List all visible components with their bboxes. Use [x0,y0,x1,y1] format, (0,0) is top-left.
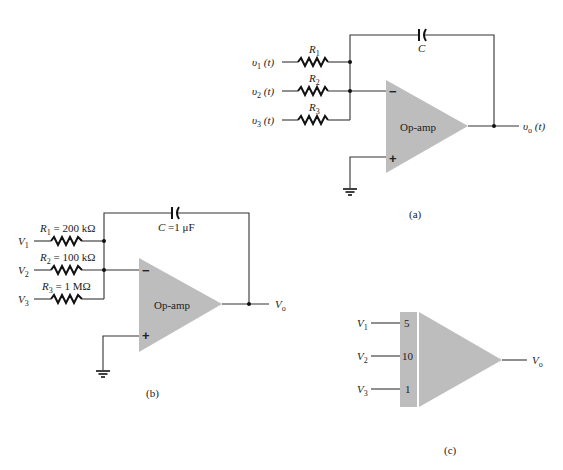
caption-b: (b) [146,387,159,400]
input-label-v2: υ2 (t) [252,85,275,100]
input-label-v3: υ3 (t) [252,114,275,129]
resistor-label-r1: R1 [308,43,320,58]
gain-v2: 10 [402,350,414,362]
ground-wire [103,336,139,370]
input-label-v1: V1 [18,235,29,250]
input-label-v2: V2 [357,350,368,365]
capacitor-label: C =1 μF [158,221,195,233]
junction-dot [102,239,106,243]
amplifier-triangle [419,312,502,407]
resistor-label-r3: R3 = 1 MΩ [41,280,91,295]
junction-dot [348,60,352,64]
resistor-label-r1: R1 = 200 kΩ [39,222,95,237]
circuit-diagrams: C υ1 (t) R1 υ2 (t) R2 υ3 (t) R3 [0,0,563,470]
caption-a: (a) [409,208,422,221]
input-label-v1: υ1 (t) [252,56,275,71]
input-label-v1: V1 [357,317,368,332]
noninverting-sign: + [389,151,397,166]
output-label: Vo [275,298,286,313]
capacitor-icon [419,29,426,41]
resistor-icon-r3 [51,295,82,303]
junction-dot [348,89,352,93]
caption-c: (c) [444,444,457,457]
gain-v1: 5 [404,317,410,329]
diagram-c: V1 5 V2 10 V3 1 Vo (c) [357,312,543,457]
diagram-b: C =1 μF V1 R1 = 200 kΩ V2 R2 = 100 kΩ V3 [18,207,286,400]
resistor-icon-r3 [298,116,328,124]
inverting-sign: − [142,263,150,278]
feedback-wire-left [350,35,419,62]
junction-dot [492,124,496,128]
resistor-label-r2: R2 [308,72,320,87]
diagram-a: C υ1 (t) R1 υ2 (t) R2 υ3 (t) R3 [252,29,546,221]
input-label-v3: V3 [357,383,368,398]
input-label-v3: V3 [18,293,29,308]
junction-dot [247,302,251,306]
resistor-label-r3: R3 [308,101,320,116]
input-label-v2: V2 [18,264,29,279]
resistor-label-r2: R2 = 100 kΩ [39,251,95,266]
ground-icon [343,189,357,195]
resistor-icon-r1 [51,237,82,245]
output-label: υo (t) [523,120,546,135]
opamp-label: Op-amp [154,299,191,311]
opamp-label: Op-amp [400,121,437,133]
inverting-sign: − [389,84,397,99]
junction-dot [102,268,106,272]
ground-icon [96,371,110,377]
output-label: Vo [532,354,543,369]
resistor-icon-r2 [298,87,328,95]
resistor-icon-r2 [51,266,82,274]
gain-v3: 1 [405,383,411,395]
noninverting-sign: + [142,328,150,343]
capacitor-icon [172,207,179,219]
capacitor-label: C [418,42,426,54]
resistor-icon-r1 [298,58,328,66]
ground-wire [350,157,386,188]
